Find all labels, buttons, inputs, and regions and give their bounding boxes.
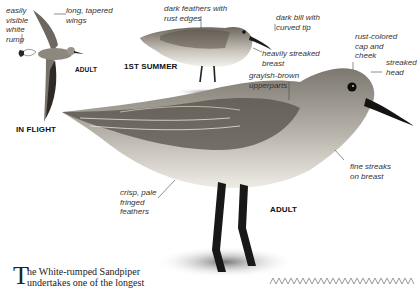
caption-first-summer: 1ST SUMMER bbox=[124, 62, 177, 71]
label-fine-streaks: fine streaks on breast bbox=[350, 162, 391, 181]
label-rust-cap: rust-colored cap and cheek bbox=[355, 32, 397, 61]
caption-adult: ADULT bbox=[270, 205, 297, 214]
label-dark-bill: dark bill with curved tip bbox=[276, 13, 320, 32]
label-upperparts: grayish-brown upperparts bbox=[249, 71, 299, 90]
label-streaked-breast: heavily streaked breast bbox=[262, 49, 320, 68]
label-white-rump: easily visible white rump bbox=[6, 6, 28, 44]
body-line-2: undertakes one of the longest bbox=[27, 277, 144, 288]
caption-flight-adult: ADULT bbox=[75, 66, 97, 73]
label-tapered-wings: long, tapered wings bbox=[66, 6, 113, 25]
label-streaked-head: streaked head bbox=[386, 58, 417, 77]
zigzag-divider bbox=[270, 278, 414, 284]
label-dark-feathers: dark feathers with rust edges bbox=[164, 4, 227, 23]
body-line-1: he White-rumped Sandpiper bbox=[27, 266, 140, 277]
label-fringed-feathers: crisp, pale fringed feathers bbox=[120, 188, 156, 217]
caption-in-flight: IN FLIGHT bbox=[16, 125, 56, 134]
